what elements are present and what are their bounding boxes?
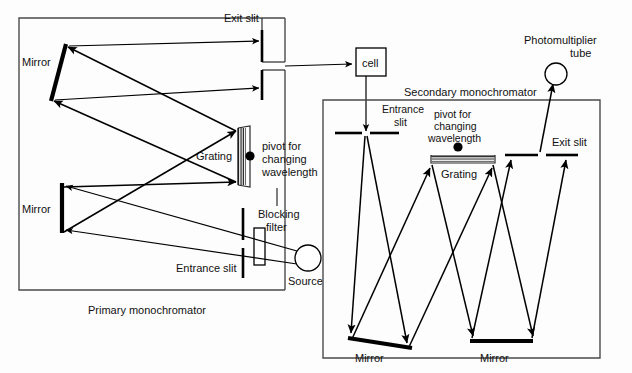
secondary-pivot-label-line1: pivot for	[434, 108, 472, 120]
primary-caption: Primary monochromator	[88, 304, 206, 316]
primary-top-mirror	[51, 44, 66, 101]
secondary-grating	[431, 155, 495, 163]
blocking-filter-label-line2: filter	[266, 221, 287, 233]
secondary-pivot-label-line3: wavelength	[427, 132, 481, 144]
secondary-right-mirror-label: Mirror	[480, 352, 509, 364]
sample-cell-label: cell	[362, 57, 379, 69]
primary-top-mirror-label: Mirror	[22, 56, 51, 68]
detector-label-line1: Photomultiplier	[524, 34, 597, 46]
secondary-grating-label: Grating	[441, 168, 477, 180]
secondary-left-mirror	[348, 338, 412, 348]
blocking-filter-label-line1: Blocking	[258, 208, 300, 220]
optical-diagram: Exit slit Mirror Mirror Grating pivot fo…	[0, 0, 632, 373]
primary-pivot-dot	[245, 151, 254, 160]
primary-pivot-label-line1: pivot for	[262, 140, 301, 152]
primary-entrance-slit-label: Entrance slit	[176, 262, 237, 274]
primary-exit-slit-label: Exit slit	[224, 12, 259, 24]
source-label: Source	[288, 275, 323, 287]
secondary-left-mirror-label: Mirror	[355, 352, 384, 364]
primary-pivot-label-line2: changing	[262, 153, 307, 165]
source-lamp	[295, 245, 321, 271]
photomultiplier-tube	[545, 63, 567, 85]
secondary-entrance-slit-label-line1: Entrance	[382, 103, 424, 115]
detector-label-line2: tube	[570, 47, 591, 59]
secondary-pivot-label-line2: changing	[434, 120, 477, 132]
primary-bottom-mirror-label: Mirror	[22, 203, 51, 215]
secondary-caption: Secondary monochromator	[404, 86, 537, 98]
secondary-exit-slit-label: Exit slit	[552, 136, 587, 148]
primary-pivot-label-line3: wavelength	[261, 166, 318, 178]
beam-to-cell	[285, 64, 352, 66]
secondary-entrance-slit-label-line2: slit	[394, 116, 407, 128]
diagram-canvas: Exit slit Mirror Mirror Grating pivot fo…	[0, 0, 632, 373]
